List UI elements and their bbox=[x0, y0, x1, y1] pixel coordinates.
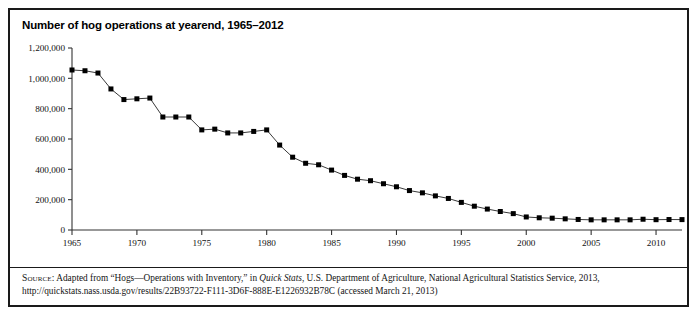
source-label: Source: bbox=[22, 272, 54, 283]
data-point-marker bbox=[264, 127, 269, 132]
y-axis-tick-label: 400,000 bbox=[35, 165, 65, 175]
data-point-marker bbox=[472, 204, 477, 209]
x-axis: 1965197019751980198519901995200020052010 bbox=[63, 230, 682, 248]
y-axis: 0200,000400,000600,000800,0001,000,0001,… bbox=[28, 43, 72, 235]
data-point-marker bbox=[498, 209, 503, 214]
y-axis-tick-label: 1,000,000 bbox=[28, 74, 65, 84]
data-point-marker bbox=[459, 200, 464, 205]
hog-operations-line-chart: 0200,000400,000600,000800,0001,000,0001,… bbox=[10, 40, 687, 262]
data-point-marker bbox=[303, 161, 308, 166]
data-point-marker bbox=[147, 96, 152, 101]
data-point-marker bbox=[355, 177, 360, 182]
data-point-marker bbox=[641, 217, 646, 222]
data-point-marker bbox=[238, 130, 243, 135]
data-point-marker bbox=[667, 217, 672, 222]
y-axis-tick-label: 0 bbox=[60, 225, 65, 235]
data-point-marker bbox=[563, 216, 568, 221]
source-text-before: Adapted from “Hogs—Operations with Inven… bbox=[54, 273, 259, 283]
data-point-marker bbox=[108, 86, 113, 91]
data-point-marker bbox=[199, 127, 204, 132]
x-axis-tick-label: 1970 bbox=[128, 238, 147, 248]
data-point-marker bbox=[368, 178, 373, 183]
x-axis-tick-label: 2005 bbox=[582, 238, 601, 248]
data-point-marker bbox=[121, 97, 126, 102]
data-point-marker bbox=[277, 143, 282, 148]
data-point-marker bbox=[82, 68, 87, 73]
data-point-marker bbox=[394, 184, 399, 189]
data-point-marker bbox=[381, 181, 386, 186]
data-point-marker bbox=[160, 115, 165, 120]
data-point-marker bbox=[290, 155, 295, 160]
data-point-marker bbox=[589, 217, 594, 222]
data-point-marker bbox=[615, 217, 620, 222]
data-point-marker bbox=[524, 214, 529, 219]
y-axis-tick-label: 200,000 bbox=[35, 195, 65, 205]
figure-container: Number of hog operations at yearend, 196… bbox=[8, 8, 689, 307]
data-point-marker bbox=[680, 217, 685, 222]
source-divider bbox=[10, 267, 687, 268]
x-axis-tick-label: 2010 bbox=[647, 238, 666, 248]
chart-plot-area: 0200,000400,000600,000800,0001,000,0001,… bbox=[10, 40, 687, 262]
x-axis-tick-label: 2000 bbox=[517, 238, 536, 248]
data-point-marker bbox=[420, 190, 425, 195]
y-axis-tick-label: 600,000 bbox=[35, 134, 65, 144]
x-axis-tick-label: 1980 bbox=[257, 238, 276, 248]
y-axis-tick-label: 1,200,000 bbox=[28, 43, 65, 53]
data-point-marker bbox=[212, 127, 217, 132]
data-point-marker bbox=[550, 216, 555, 221]
data-point-marker bbox=[173, 115, 178, 120]
data-series-hog-operations bbox=[70, 67, 685, 222]
data-point-marker bbox=[225, 130, 230, 135]
source-publication-title: Quick Stats bbox=[259, 273, 302, 283]
data-point-marker bbox=[329, 168, 334, 173]
data-point-marker bbox=[186, 115, 191, 120]
data-point-marker bbox=[628, 217, 633, 222]
data-point-marker bbox=[70, 67, 75, 72]
data-point-marker bbox=[316, 162, 321, 167]
x-axis-tick-label: 1985 bbox=[322, 238, 341, 248]
x-axis-tick-label: 1990 bbox=[387, 238, 406, 248]
page-title: Number of hog operations at yearend, 196… bbox=[22, 19, 284, 31]
data-point-marker bbox=[654, 217, 659, 222]
source-note: Source: Adapted from “Hogs—Operations wi… bbox=[22, 272, 677, 297]
x-axis-tick-label: 1975 bbox=[193, 238, 212, 248]
y-axis-tick-label: 800,000 bbox=[35, 104, 65, 114]
x-axis-tick-label: 1965 bbox=[63, 238, 82, 248]
data-point-marker bbox=[407, 188, 412, 193]
data-point-marker bbox=[485, 207, 490, 212]
data-point-marker bbox=[602, 217, 607, 222]
data-point-marker bbox=[433, 193, 438, 198]
data-point-marker bbox=[576, 217, 581, 222]
data-point-marker bbox=[251, 129, 256, 134]
data-point-marker bbox=[537, 215, 542, 220]
data-point-marker bbox=[134, 96, 139, 101]
data-point-marker bbox=[342, 173, 347, 178]
data-point-marker bbox=[95, 71, 100, 76]
data-point-marker bbox=[446, 196, 451, 201]
x-axis-tick-label: 1995 bbox=[452, 238, 471, 248]
data-point-marker bbox=[511, 211, 516, 216]
